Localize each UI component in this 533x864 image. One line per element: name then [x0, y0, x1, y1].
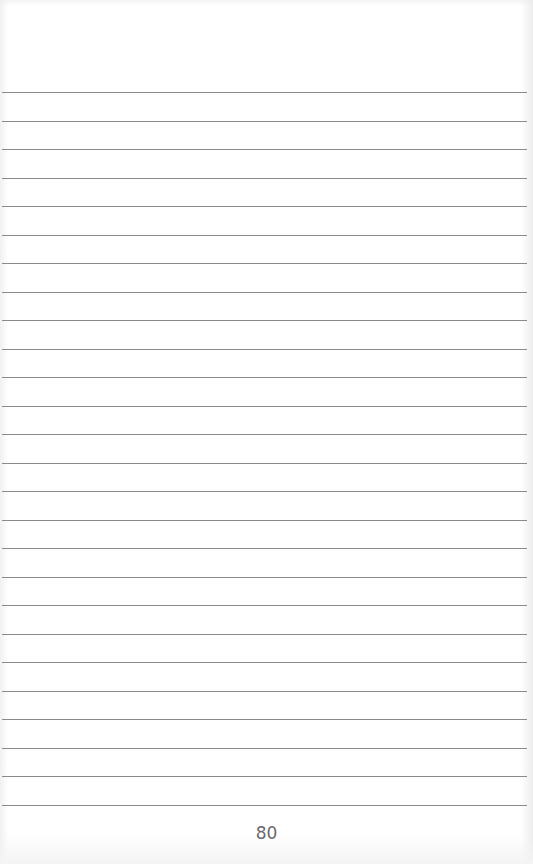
- ruled-line: [2, 605, 527, 606]
- ruled-line: [2, 691, 527, 692]
- ruled-line: [2, 206, 527, 207]
- ruled-line: [2, 263, 527, 264]
- ruled-line: [2, 805, 527, 806]
- ruled-line: [2, 349, 527, 350]
- page-right-shadow: [521, 0, 533, 864]
- ruled-line: [2, 548, 527, 549]
- ruled-line: [2, 776, 527, 777]
- ruled-line: [2, 491, 527, 492]
- page-top-shadow: [0, 0, 533, 6]
- ruled-line: [2, 719, 527, 720]
- ruled-line: [2, 121, 527, 122]
- ruled-line: [2, 320, 527, 321]
- page-left-shadow: [0, 0, 8, 864]
- ruled-line: [2, 292, 527, 293]
- ruled-line: [2, 634, 527, 635]
- ruled-line: [2, 149, 527, 150]
- ruled-line: [2, 377, 527, 378]
- notebook-page: 80: [0, 0, 533, 864]
- ruled-line: [2, 178, 527, 179]
- ruled-line: [2, 748, 527, 749]
- ruled-line: [2, 434, 527, 435]
- ruled-line: [2, 92, 527, 93]
- ruled-line: [2, 406, 527, 407]
- ruled-line: [2, 235, 527, 236]
- ruled-line: [2, 662, 527, 663]
- page-number: 80: [0, 822, 533, 844]
- ruled-line: [2, 463, 527, 464]
- ruled-line: [2, 577, 527, 578]
- ruled-line: [2, 520, 527, 521]
